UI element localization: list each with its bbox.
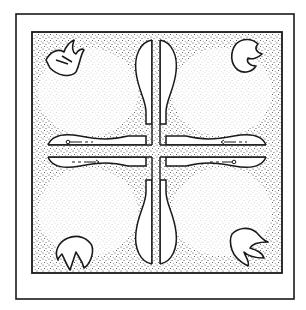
quilt-pattern-figure <box>0 0 306 310</box>
pattern-svg <box>0 0 306 310</box>
